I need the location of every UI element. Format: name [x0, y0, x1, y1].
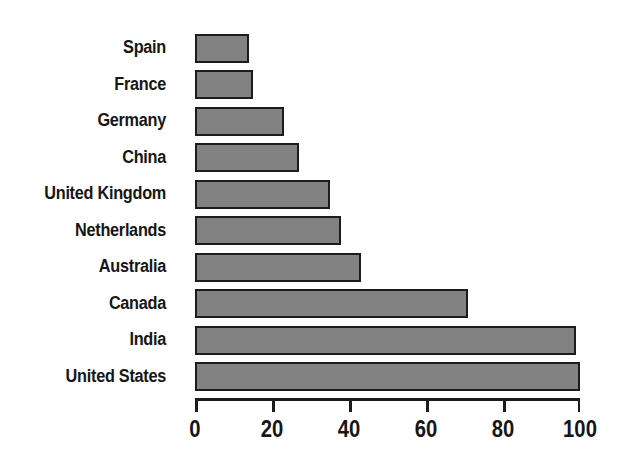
x-axis-tick-label: 20	[237, 418, 307, 441]
category-label: Australia	[8, 258, 166, 276]
x-axis	[195, 398, 580, 414]
bar	[195, 107, 284, 136]
x-axis-tick-label: 60	[391, 418, 461, 441]
category-label: India	[8, 331, 166, 349]
category-label: Germany	[8, 112, 166, 130]
category-label: France	[8, 76, 166, 94]
x-axis-tick	[578, 398, 581, 412]
x-axis-tick	[195, 398, 198, 412]
x-axis-tick	[426, 398, 429, 412]
bar	[195, 326, 576, 355]
bar	[195, 216, 341, 245]
bar-chart: SpainFranceGermanyChinaUnited KingdomNet…	[0, 0, 617, 466]
category-label: United States	[8, 368, 166, 386]
x-axis-tick	[272, 398, 275, 412]
bar	[195, 143, 299, 172]
bar	[195, 70, 253, 99]
x-axis-tick	[349, 398, 352, 412]
category-axis-labels: SpainFranceGermanyChinaUnited KingdomNet…	[0, 30, 180, 395]
plot-area	[195, 30, 580, 395]
category-label: Netherlands	[8, 222, 166, 240]
x-axis-tick-label: 100	[545, 418, 615, 441]
bar	[195, 34, 249, 63]
category-label: China	[8, 149, 166, 167]
category-label: Spain	[8, 39, 166, 57]
x-axis-tick-label: 80	[468, 418, 538, 441]
bar	[195, 253, 361, 282]
bar	[195, 362, 580, 391]
x-axis-tick	[503, 398, 506, 412]
category-label: Canada	[8, 295, 166, 313]
bar	[195, 180, 330, 209]
x-axis-tick-label: 0	[160, 418, 230, 441]
bar	[195, 289, 468, 318]
x-axis-tick-label: 40	[314, 418, 384, 441]
x-axis-line	[195, 398, 580, 401]
category-label: United Kingdom	[8, 185, 166, 203]
